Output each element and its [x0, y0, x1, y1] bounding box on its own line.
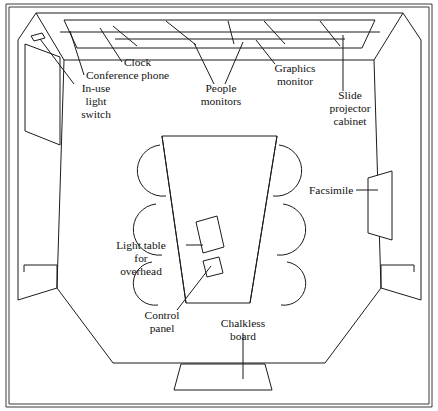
chair-right-1: [273, 145, 302, 196]
right-wall-outer-edge: [381, 13, 421, 300]
chairs-right-group: [273, 145, 306, 305]
label-line: Clock: [124, 56, 152, 68]
label-line: Chalkless: [221, 317, 266, 329]
label-graphics-monitor: Graphicsmonitor: [274, 62, 316, 87]
label-line: Facsimile: [309, 184, 353, 196]
label-line: panel: [150, 322, 175, 334]
label-slide-projector-cabinet: Slideprojectorcabinet: [329, 89, 370, 127]
label-line: board: [230, 330, 256, 342]
chair-left-1: [137, 145, 166, 196]
label-line: for: [134, 252, 147, 264]
label-line: light: [86, 95, 108, 107]
label-line: monitor: [277, 75, 313, 87]
label-line: Slide: [338, 89, 361, 101]
label-people-monitors: Peoplemonitors: [201, 82, 242, 107]
ceiling-right-edge: [374, 13, 403, 60]
ceiling-group: [36, 13, 403, 60]
furniture-group: [133, 136, 305, 390]
chair-right-3: [281, 262, 306, 305]
conference-room-diagram: Conference room perspective cutaway Line…: [0, 0, 438, 411]
label-line: Conference phone: [86, 69, 169, 81]
label-line: Control: [145, 309, 180, 321]
chair-right-2: [277, 204, 306, 255]
label-clock: Clock: [124, 56, 152, 68]
floor-left-edge: [57, 288, 113, 363]
label-line: In-use: [82, 82, 110, 94]
label-line: projector: [329, 102, 370, 114]
label-chalkless-board: Chalklessboard: [221, 317, 266, 342]
leader-people-monitors-left: [194, 43, 214, 84]
label-line: overhead: [120, 265, 162, 277]
facsimile-unit: [368, 171, 392, 240]
chalkless-board-surface: [174, 364, 272, 390]
conference-table: [162, 136, 277, 303]
floor-right-edge: [325, 288, 381, 363]
in-use-light-switch-plate[interactable]: [31, 33, 45, 41]
label-facsimile: Facsimile: [309, 184, 353, 196]
label-line: Graphics: [274, 62, 316, 74]
label-conference-phone: Conference phone: [86, 69, 169, 81]
label-line: Light table: [116, 239, 166, 251]
chairs-left-group: [133, 145, 166, 305]
label-line: switch: [81, 108, 111, 120]
label-control-panel: Controlpanel: [145, 309, 180, 334]
label-line: People: [205, 82, 236, 94]
label-light-table-for-overhead: Light tableforoverhead: [116, 239, 166, 277]
label-in-use-light-switch: In-uselightswitch: [81, 82, 111, 120]
label-line: cabinet: [334, 115, 368, 127]
control-panel-unit[interactable]: [203, 257, 223, 277]
room-perspective-drawing: Conference room perspective cutaway Line…: [0, 0, 438, 411]
label-line: monitors: [201, 95, 242, 107]
